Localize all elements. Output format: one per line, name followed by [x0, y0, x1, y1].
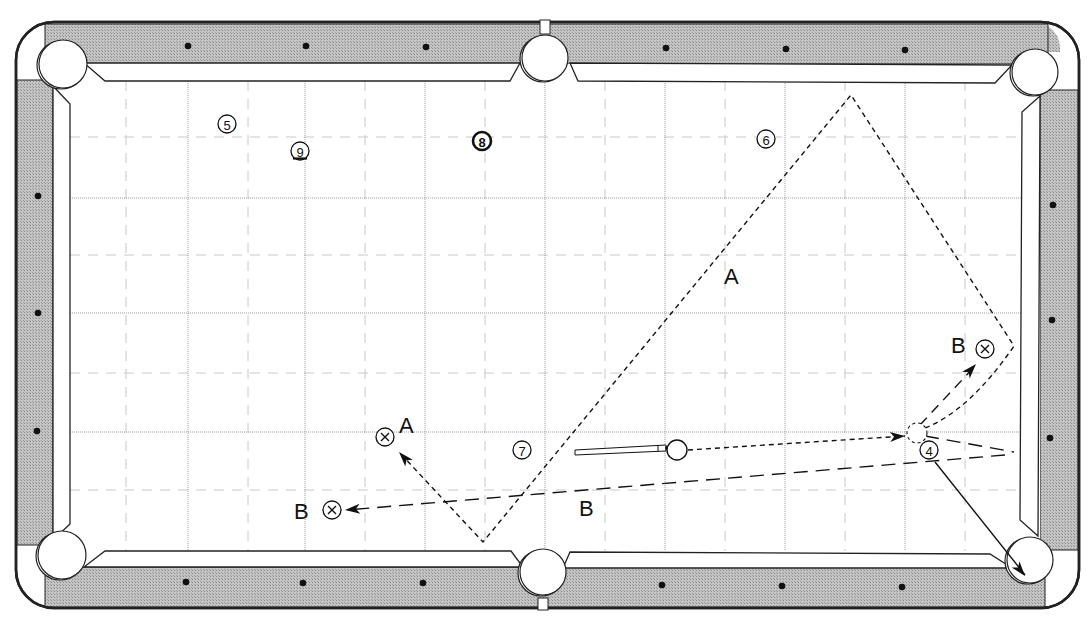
pocket-icon	[522, 35, 568, 81]
cushion-top-right	[570, 63, 1012, 83]
pocket-icon	[1012, 49, 1058, 95]
pocket-icon	[38, 531, 86, 579]
diamond-marker	[34, 428, 41, 435]
ball-6: 6	[757, 130, 775, 148]
diamond-marker	[35, 310, 42, 317]
cushion-right	[1020, 96, 1040, 536]
pocket-notch-bottom	[538, 598, 548, 610]
target-label: A	[399, 413, 414, 438]
target-label: B	[951, 333, 966, 358]
pocket-bottom-middle	[518, 549, 566, 596]
diamond-marker	[420, 580, 427, 587]
pocket-bottom-left	[36, 531, 86, 580]
diamond-marker	[35, 193, 42, 200]
ball-4: 4	[920, 441, 938, 459]
pocket-icon	[520, 549, 566, 595]
ball-8: 8	[473, 132, 491, 150]
path-label-a: A	[724, 264, 739, 289]
diamond-marker	[1047, 435, 1054, 442]
path-label-b: B	[579, 496, 594, 521]
pocket-top-left	[37, 40, 87, 89]
pocket-notch-top	[540, 20, 550, 34]
diamond-marker	[783, 46, 790, 53]
diagram-canvas: 598674 ABBAB	[0, 0, 1090, 618]
pocket-icon	[39, 40, 87, 88]
diamond-marker	[1050, 202, 1057, 209]
table-frame	[16, 22, 1079, 608]
right-rail	[1040, 90, 1078, 550]
ball-number: 7	[518, 444, 525, 459]
diamond-marker	[300, 580, 307, 587]
diamond-marker	[659, 582, 666, 589]
diamond-marker	[303, 43, 310, 50]
ball-7: 7	[513, 441, 531, 459]
pool-table-diagram: 598674 ABBAB	[0, 0, 1090, 618]
diamond-marker	[663, 45, 670, 52]
ball-number: 5	[223, 118, 230, 133]
diamond-marker	[1049, 317, 1056, 324]
diamond-marker	[423, 44, 430, 51]
pocket-top-right	[1010, 49, 1058, 96]
pocket-bottom-right	[1005, 537, 1053, 584]
cue-ball	[667, 440, 687, 460]
cushion-bottom-left	[84, 551, 523, 567]
playfield	[53, 64, 1040, 567]
diamond-marker	[183, 579, 190, 586]
cushion-bottom-right	[563, 552, 1012, 568]
diamond-marker	[185, 43, 192, 50]
target-label: B	[294, 499, 309, 524]
ghost-ball	[907, 423, 927, 443]
diamond-marker	[899, 584, 906, 591]
diamond-marker	[902, 47, 909, 54]
cushion-left	[53, 86, 70, 540]
diamond-marker	[779, 583, 786, 590]
ball-number: 4	[925, 444, 932, 459]
ball-9: 9	[291, 142, 309, 160]
ball-5: 5	[218, 115, 236, 133]
ball-number: 9	[296, 145, 303, 160]
ball-number: 8	[478, 135, 485, 150]
ball-number: 6	[762, 133, 769, 148]
pocket-top-middle	[520, 35, 568, 82]
cushion-top-left	[84, 63, 520, 81]
